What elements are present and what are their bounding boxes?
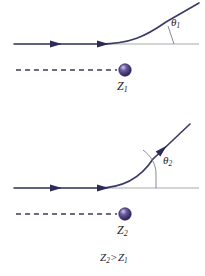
theta-2-label: θ2 xyxy=(163,155,172,168)
z-2-subscript: 2 xyxy=(124,229,128,238)
z-1-symbol: Z xyxy=(117,79,124,93)
z-1-subscript: 1 xyxy=(124,85,128,94)
incoming-arrowhead-bottom-1 xyxy=(50,185,62,192)
theta-1-subscript: 1 xyxy=(176,22,180,30)
nucleus-top xyxy=(119,64,131,76)
nucleus-bottom xyxy=(119,208,131,220)
comparison-right-subscript: 1 xyxy=(124,257,128,265)
z-2-label: Z2 xyxy=(117,224,128,238)
charge-comparison-label: Z2>Z1 xyxy=(100,252,128,265)
z-1-label: Z1 xyxy=(117,80,128,94)
scattering-figure: θ1 Z1 θ2 Z2 Z2>Z1 xyxy=(0,0,205,276)
theta-1-label: θ1 xyxy=(171,17,180,30)
incoming-arrowhead-bottom-2 xyxy=(97,185,109,192)
incoming-arrowhead-top-2 xyxy=(97,41,109,48)
z-2-symbol: Z xyxy=(117,223,124,237)
panel-top xyxy=(14,3,199,76)
figure-canvas xyxy=(0,0,205,276)
theta-2-subscript: 2 xyxy=(168,160,172,168)
panel-bottom xyxy=(14,124,199,220)
comparison-operator: > xyxy=(110,251,118,263)
incoming-arrowhead-top-1 xyxy=(50,41,62,48)
